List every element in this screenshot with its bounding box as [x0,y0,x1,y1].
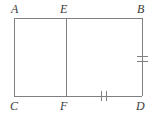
vertex-label-e: E [60,3,67,15]
geometry-canvas [0,0,155,116]
vertex-label-a: A [11,3,18,15]
vertex-label-b: B [137,3,144,15]
geometry-figure: A E B C F D [0,0,155,116]
vertex-label-c: C [10,100,18,112]
vertex-label-f: F [60,100,67,112]
vertex-label-d: D [136,100,145,112]
